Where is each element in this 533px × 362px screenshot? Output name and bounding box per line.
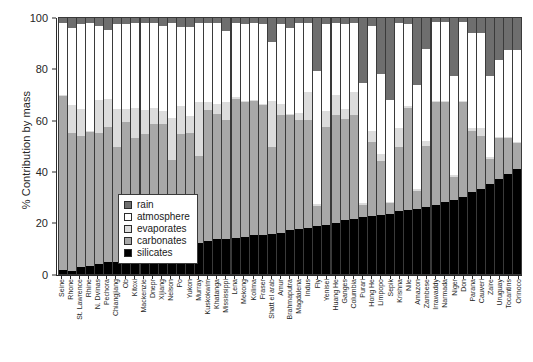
stacked-bar[interactable] — [368, 18, 376, 274]
bar-column[interactable] — [249, 18, 258, 274]
bar-column[interactable] — [376, 18, 385, 274]
bar-segment-atmosphere — [313, 71, 321, 205]
bar-column[interactable] — [295, 18, 304, 274]
bar-column[interactable] — [276, 18, 285, 274]
bar-column[interactable] — [213, 18, 222, 274]
bar-column[interactable] — [349, 18, 358, 274]
stacked-bar[interactable] — [441, 18, 449, 274]
bar-column[interactable] — [286, 18, 295, 274]
legend-item[interactable]: carbonates — [124, 235, 190, 247]
bar-column[interactable] — [386, 18, 395, 274]
bar-column[interactable] — [422, 18, 431, 274]
stacked-bar[interactable] — [341, 18, 349, 274]
stacked-bar[interactable] — [513, 18, 521, 274]
stacked-bar[interactable] — [68, 18, 76, 274]
bar-column[interactable] — [440, 18, 449, 274]
bar-segment-rain — [177, 18, 185, 27]
bar-column[interactable] — [85, 18, 94, 274]
stacked-bar[interactable] — [77, 18, 85, 274]
legend-item[interactable]: evaporates — [124, 223, 190, 235]
stacked-bar[interactable] — [104, 18, 112, 274]
bar-column[interactable] — [486, 18, 495, 274]
stacked-bar[interactable] — [422, 18, 430, 274]
stacked-bar[interactable] — [322, 18, 330, 274]
x-label-column: Pechora — [102, 276, 111, 362]
stacked-bar[interactable] — [259, 18, 267, 274]
stacked-bar[interactable] — [95, 18, 103, 274]
stacked-bar[interactable] — [377, 18, 385, 274]
stacked-bar[interactable] — [450, 18, 458, 274]
bar-column[interactable] — [258, 18, 267, 274]
bar-column[interactable] — [104, 18, 113, 274]
bar-column[interactable] — [413, 18, 422, 274]
stacked-bar[interactable] — [468, 18, 476, 274]
stacked-bar[interactable] — [486, 18, 494, 274]
legend-item[interactable]: atmosphere — [124, 211, 190, 223]
bar-column[interactable] — [95, 18, 104, 274]
x-label-column: Yenisei — [321, 276, 330, 362]
bar-segment-atmosphere — [222, 31, 230, 103]
bar-column[interactable] — [431, 18, 440, 274]
stacked-bar[interactable] — [232, 18, 240, 274]
stacked-bar[interactable] — [286, 18, 294, 274]
bar-column[interactable] — [267, 18, 276, 274]
stacked-bar[interactable] — [295, 18, 303, 274]
bar-column[interactable] — [67, 18, 76, 274]
bar-segment-atmosphere — [141, 23, 149, 110]
bar-segment-silicates — [59, 270, 67, 274]
stacked-bar[interactable] — [395, 18, 403, 274]
bar-column[interactable] — [240, 18, 249, 274]
bar-column[interactable] — [458, 18, 467, 274]
stacked-bar[interactable] — [250, 18, 258, 274]
stacked-bar[interactable] — [277, 18, 285, 274]
stacked-bar[interactable] — [222, 18, 230, 274]
bar-column[interactable] — [449, 18, 458, 274]
bar-column[interactable] — [395, 18, 404, 274]
bar-column[interactable] — [367, 18, 376, 274]
legend-item[interactable]: silicates — [124, 247, 190, 259]
bar-column[interactable] — [322, 18, 331, 274]
bar-column[interactable] — [231, 18, 240, 274]
legend-item[interactable]: rain — [124, 199, 190, 211]
stacked-bar[interactable] — [204, 18, 212, 274]
bar-column[interactable] — [477, 18, 486, 274]
stacked-bar[interactable] — [86, 18, 94, 274]
bar-column[interactable] — [313, 18, 322, 274]
bar-segment-carbonates — [86, 132, 94, 266]
stacked-bar[interactable] — [459, 18, 467, 274]
stacked-bar[interactable] — [477, 18, 485, 274]
stacked-bar[interactable] — [404, 18, 412, 274]
bar-column[interactable] — [504, 18, 513, 274]
bar-segment-carbonates — [513, 143, 521, 169]
bar-column[interactable] — [222, 18, 231, 274]
stacked-bar[interactable] — [59, 18, 67, 274]
bar-column[interactable] — [76, 18, 85, 274]
bar-column[interactable] — [467, 18, 476, 274]
stacked-bar[interactable] — [304, 18, 312, 274]
bar-column[interactable] — [331, 18, 340, 274]
stacked-bar[interactable] — [350, 18, 358, 274]
stacked-bar[interactable] — [241, 18, 249, 274]
stacked-bar[interactable] — [413, 18, 421, 274]
stacked-bar[interactable] — [213, 18, 221, 274]
stacked-bar[interactable] — [495, 18, 503, 274]
bar-column[interactable] — [495, 18, 504, 274]
bar-segment-silicates — [368, 216, 376, 274]
stacked-bar[interactable] — [268, 18, 276, 274]
bar-column[interactable] — [304, 18, 313, 274]
bar-column[interactable] — [404, 18, 413, 274]
stacked-bar[interactable] — [432, 18, 440, 274]
stacked-bar[interactable] — [359, 18, 367, 274]
stacked-bar[interactable] — [504, 18, 512, 274]
stacked-bar[interactable] — [332, 18, 340, 274]
stacked-bar[interactable] — [313, 18, 321, 274]
bar-segment-atmosphere — [204, 23, 212, 102]
bar-column[interactable] — [358, 18, 367, 274]
x-tick-label: N. Dvinas — [94, 279, 101, 309]
stacked-bar[interactable] — [386, 18, 394, 274]
bar-column[interactable] — [58, 18, 67, 274]
x-tick-label: Kolima — [249, 279, 256, 300]
bar-column[interactable] — [513, 18, 522, 274]
bar-column[interactable] — [204, 18, 213, 274]
bar-column[interactable] — [340, 18, 349, 274]
